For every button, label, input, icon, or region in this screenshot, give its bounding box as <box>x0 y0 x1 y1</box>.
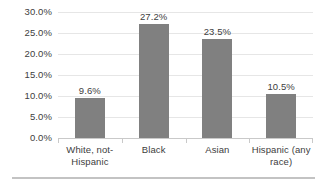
bar[interactable]: 9.6% <box>75 98 105 138</box>
x-axis-category-label: White, not-Hispanic <box>58 144 122 176</box>
y-axis-tick-label: 20.0% <box>0 49 52 59</box>
x-axis-labels: White, not-HispanicBlackAsianHispanic (a… <box>58 144 313 176</box>
bar[interactable]: 27.2% <box>139 24 169 138</box>
x-axis-category-label: Hispanic (any race) <box>249 144 313 176</box>
x-axis-category-label: Asian <box>186 144 250 176</box>
x-axis-tick <box>58 138 59 143</box>
bar[interactable]: 23.5% <box>202 39 232 138</box>
bar-value-label: 27.2% <box>140 11 167 22</box>
bar-chart: 0.0%5.0%10.0%15.0%20.0%25.0%30.0% 9.6%27… <box>0 0 327 186</box>
x-axis-tick <box>186 138 187 143</box>
x-axis-tick <box>122 138 123 143</box>
bottom-divider <box>12 177 315 179</box>
bar-slot: 27.2% <box>122 12 186 138</box>
bar-value-label: 9.6% <box>79 85 101 96</box>
plot-area: 9.6%27.2%23.5%10.5% <box>58 12 313 138</box>
y-axis-tick-label: 25.0% <box>0 28 52 38</box>
y-axis-labels: 0.0%5.0%10.0%15.0%20.0%25.0%30.0% <box>0 12 52 138</box>
bar-value-label: 10.5% <box>267 81 294 92</box>
bar[interactable]: 10.5% <box>266 94 296 138</box>
bars-container: 9.6%27.2%23.5%10.5% <box>58 12 313 138</box>
y-axis-tick-label: 15.0% <box>0 70 52 80</box>
bar-slot: 9.6% <box>58 12 122 138</box>
x-axis-tick <box>312 138 313 143</box>
x-axis-ticks <box>58 138 313 143</box>
bar-slot: 23.5% <box>186 12 250 138</box>
y-axis-tick-label: 30.0% <box>0 7 52 17</box>
bar-slot: 10.5% <box>249 12 313 138</box>
y-axis-tick-label: 10.0% <box>0 91 52 101</box>
y-axis-tick-label: 0.0% <box>0 133 52 143</box>
x-axis-category-label: Black <box>122 144 186 176</box>
x-axis-tick <box>249 138 250 143</box>
bar-value-label: 23.5% <box>204 26 231 37</box>
y-axis-tick-label: 5.0% <box>0 112 52 122</box>
